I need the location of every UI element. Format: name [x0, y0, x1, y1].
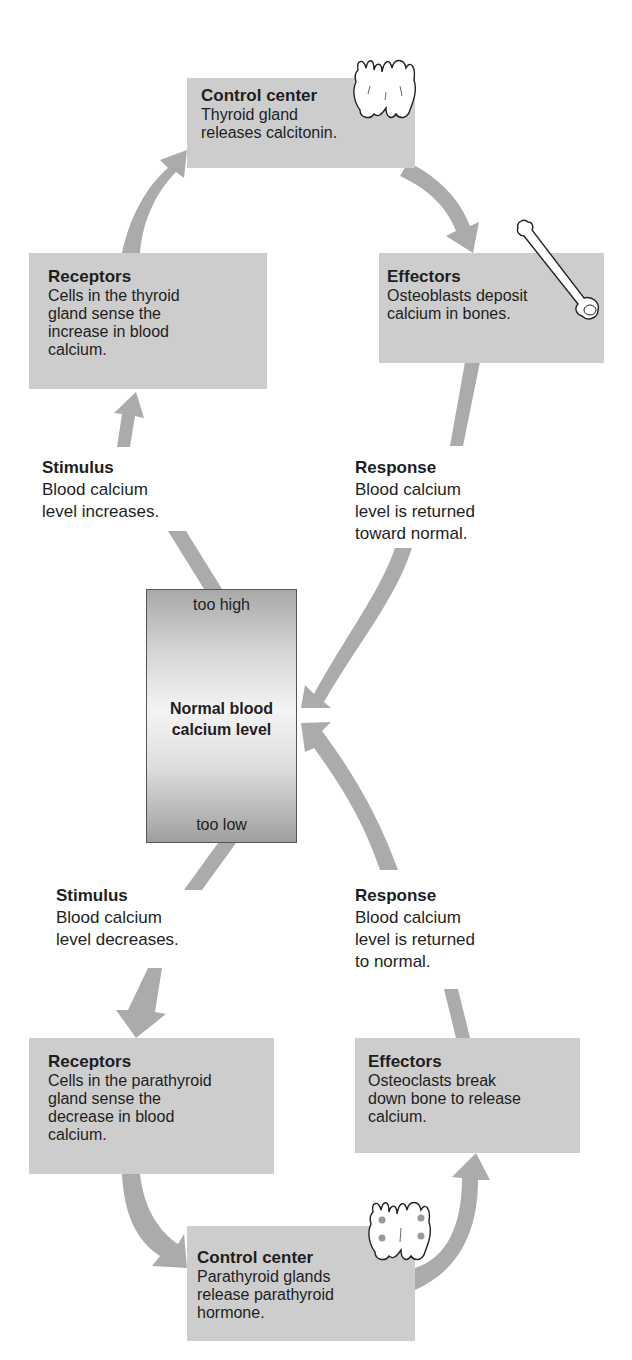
arrow-control-to-effectors-top — [400, 162, 479, 253]
receptors-body: Cells in the thyroid gland sense the inc… — [48, 287, 267, 359]
receptors-title: Receptors — [48, 1052, 274, 1072]
effectors-osteoclasts-box: Effectors Osteoclasts break down bone to… — [355, 1038, 580, 1153]
arrow-response-to-setpoint-bottom — [301, 722, 398, 870]
bone-icon — [510, 218, 604, 322]
receptors-parathyroid-box: Receptors Cells in the parathyroid gland… — [29, 1038, 274, 1174]
stimulus-body: Blood calcium level increases. — [42, 479, 159, 523]
stimulus-title: Stimulus — [56, 885, 179, 907]
stimulus-increase-label: Stimulus Blood calcium level increases. — [42, 457, 159, 523]
arrow-receptors-to-control-top — [122, 150, 187, 253]
response-to-normal-label: Response Blood calcium level is returned… — [355, 885, 475, 973]
response-body: Blood calcium level is returned toward n… — [355, 479, 475, 545]
arrow-stimulus-to-receptors-bottom — [116, 968, 166, 1038]
effectors-title: Effectors — [368, 1052, 580, 1072]
parathyroid-glands-icon — [367, 1198, 435, 1264]
effectors-body: Osteoclasts break down bone to release c… — [368, 1072, 580, 1126]
response-body: Blood calcium level is returned to norma… — [355, 907, 475, 973]
response-title: Response — [355, 885, 475, 907]
response-toward-normal-label: Response Blood calcium level is returned… — [355, 457, 475, 545]
arrow-effectors-to-response-bottom — [444, 989, 470, 1038]
arrow-setpoint-to-stimulus-bottom — [184, 843, 236, 890]
arrow-stimulus-to-receptors-top — [114, 392, 144, 447]
stimulus-title: Stimulus — [42, 457, 159, 479]
receptors-thyroid-box: Receptors Cells in the thyroid gland sen… — [29, 253, 267, 389]
response-title: Response — [355, 457, 475, 479]
receptors-body: Cells in the parathyroid gland sense the… — [48, 1072, 274, 1144]
arrow-effectors-to-response-top — [450, 362, 480, 446]
receptors-title: Receptors — [48, 267, 267, 287]
arrow-setpoint-to-stimulus-top — [168, 531, 222, 589]
stimulus-body: Blood calcium level decreases. — [56, 907, 179, 951]
too-low-label: too low — [147, 816, 296, 834]
control-center-body: Parathyroid glands release parathyroid h… — [197, 1268, 415, 1322]
normal-level-label: Normal blood calcium level — [147, 698, 296, 740]
normal-calcium-level-box: too high Normal blood calcium level too … — [146, 589, 297, 843]
arrow-response-to-setpoint-top — [301, 548, 412, 708]
thyroid-gland-icon — [352, 56, 420, 122]
stimulus-decrease-label: Stimulus Blood calcium level decreases. — [56, 885, 179, 951]
arrow-receptors-to-control-bottom — [122, 1174, 187, 1268]
too-high-label: too high — [147, 596, 296, 614]
